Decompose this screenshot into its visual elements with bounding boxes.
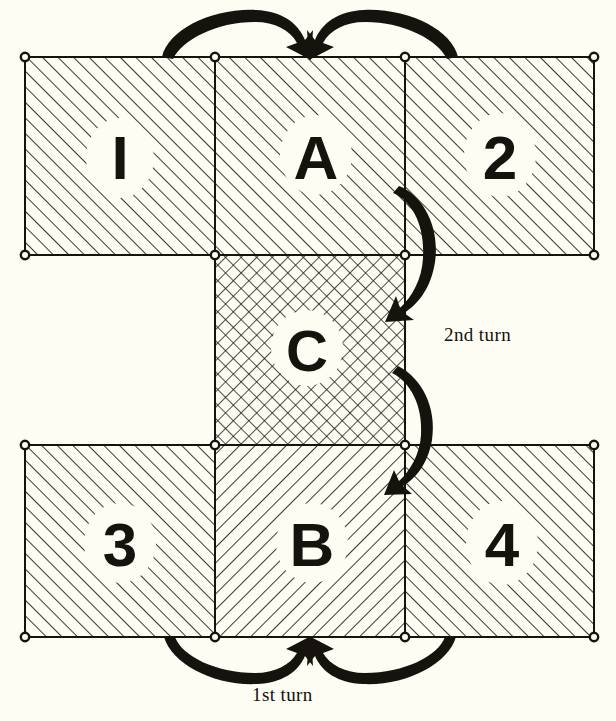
corner-marker (401, 441, 409, 449)
panel-B-label: B (290, 510, 335, 579)
corner-marker (401, 53, 409, 61)
corner-marker (211, 441, 219, 449)
first-turn-label: 1st turn (252, 684, 313, 706)
panel-3-label: 3 (103, 510, 137, 579)
corner-marker (590, 251, 598, 259)
panel-A-label: A (294, 123, 339, 192)
corner-marker (21, 441, 29, 449)
corner-marker (211, 53, 219, 61)
corner-marker (21, 53, 29, 61)
corner-marker (590, 441, 598, 449)
corner-marker (401, 633, 409, 641)
figure-canvas: I A 2 C 3 B 4 2nd turn 1st turn (0, 0, 616, 721)
corner-marker (401, 251, 409, 259)
corner-marker (211, 633, 219, 641)
panel-2-label: 2 (483, 123, 517, 192)
panel-4-label: 4 (485, 510, 520, 579)
panel-1-label: I (111, 123, 128, 192)
corner-marker (590, 633, 598, 641)
folding-diagram: I A 2 C 3 B 4 (0, 0, 616, 721)
corner-marker (590, 53, 598, 61)
second-turn-label: 2nd turn (444, 324, 511, 346)
corner-marker (21, 251, 29, 259)
corner-marker (21, 633, 29, 641)
corner-marker (211, 251, 219, 259)
panel-C-label: C (286, 318, 328, 383)
